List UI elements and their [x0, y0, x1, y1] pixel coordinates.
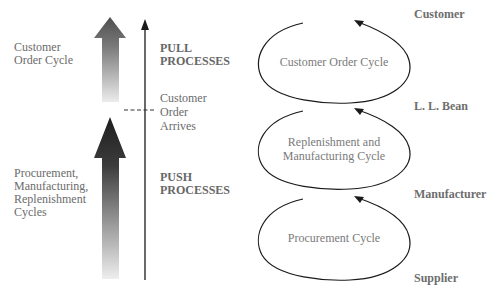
cycle-label-line: Customer Order Cycle	[268, 55, 400, 69]
push-processes-heading: PUSH PROCESSES	[160, 171, 230, 197]
pull-cycle-label-line: Order Cycle	[14, 54, 73, 67]
customer-order-arrives-label: Customer Order Arrives	[160, 91, 207, 133]
replenishment-manufacturing-cycle-label: Replenishment and Manufacturing Cycle	[268, 135, 400, 163]
tier-supplier: Supplier	[414, 272, 458, 285]
pull-process-arrow-icon	[94, 17, 126, 102]
push-process-arrow-icon	[94, 117, 126, 279]
customer-order-cycle-label: Customer Order Cycle	[268, 55, 400, 69]
pull-heading-line: PROCESSES	[160, 55, 230, 68]
cycle-label-line: Manufacturing Cycle	[268, 149, 400, 163]
vertical-axis-arrow-icon	[141, 19, 149, 280]
pull-cycle-label: Customer Order Cycle	[14, 41, 73, 67]
boundary-label-line: Customer	[160, 91, 207, 105]
diagram-canvas	[0, 0, 500, 293]
push-cycles-label: Procurement, Manufacturing, Replenishmen…	[14, 167, 88, 219]
cycle-label-line: Replenishment and	[268, 135, 400, 149]
push-heading-line: PROCESSES	[160, 184, 230, 197]
tier-ll-bean: L. L. Bean	[414, 100, 468, 113]
push-cycles-label-line: Cycles	[14, 206, 88, 219]
procurement-cycle-label: Procurement Cycle	[268, 231, 400, 245]
boundary-label-line: Order	[160, 105, 207, 119]
pull-processes-heading: PULL PROCESSES	[160, 42, 230, 68]
tier-manufacturer: Manufacturer	[414, 188, 486, 201]
boundary-label-line: Arrives	[160, 119, 207, 133]
tier-customer: Customer	[414, 8, 465, 21]
cycle-label-line: Procurement Cycle	[268, 231, 400, 245]
